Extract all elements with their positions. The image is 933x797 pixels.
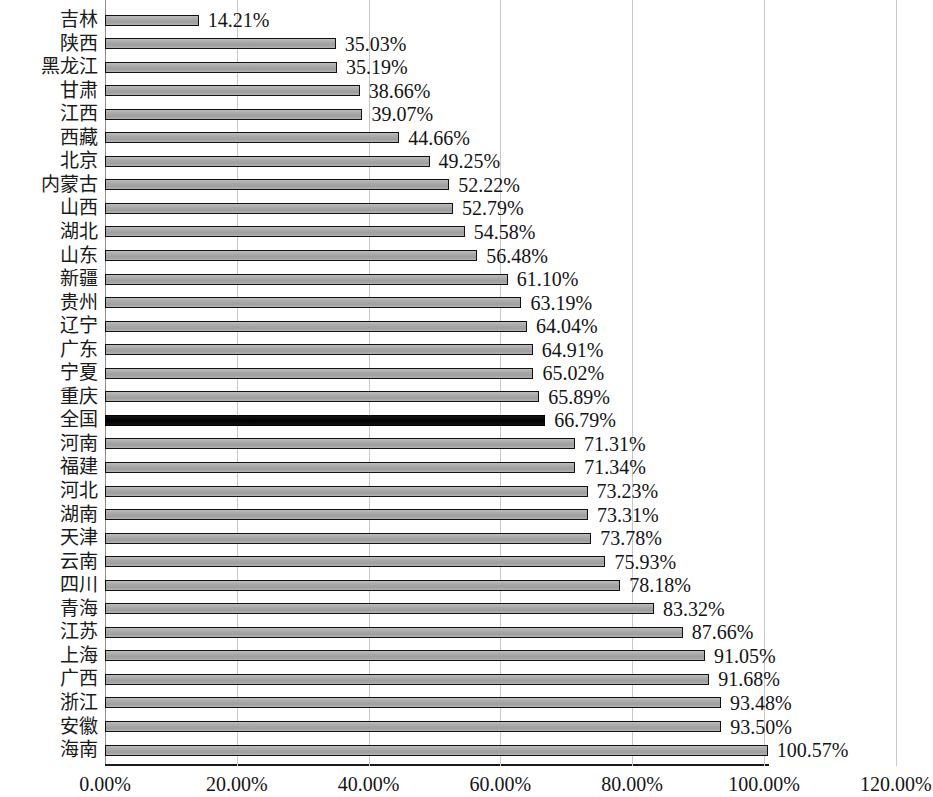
category-label: 云南 bbox=[2, 552, 98, 571]
category-label: 内蒙古 bbox=[2, 175, 98, 194]
bar-value-label: 63.19% bbox=[530, 293, 592, 313]
bar-value-label: 35.19% bbox=[346, 57, 408, 77]
bar-value-label: 100.57% bbox=[777, 740, 849, 760]
value-axis-tick: 40.00% bbox=[338, 774, 400, 794]
bar bbox=[105, 603, 654, 614]
bar-value-label: 39.07% bbox=[371, 104, 433, 124]
bar bbox=[105, 650, 705, 661]
bar bbox=[105, 250, 477, 261]
bar bbox=[105, 391, 539, 402]
category-label: 天津 bbox=[2, 528, 98, 547]
category-label: 福建 bbox=[2, 457, 98, 476]
bar-value-label: 35.03% bbox=[345, 34, 407, 54]
bar-value-label: 44.66% bbox=[408, 128, 470, 148]
bar bbox=[105, 509, 588, 520]
category-label: 湖北 bbox=[2, 222, 98, 241]
bar bbox=[105, 533, 591, 544]
bar bbox=[105, 109, 362, 120]
bar bbox=[105, 132, 399, 143]
bar-value-label: 78.18% bbox=[629, 575, 691, 595]
category-label: 黑龙江 bbox=[2, 57, 98, 76]
bar-value-label: 38.66% bbox=[369, 81, 431, 101]
bar-value-label: 54.58% bbox=[474, 222, 536, 242]
horizontal-bar-chart: 吉林陕西黑龙江甘肃江西西藏北京内蒙古山西湖北山东新疆贵州辽宁广东宁夏重庆全国河南… bbox=[0, 0, 933, 797]
bar-value-label: 52.79% bbox=[462, 198, 524, 218]
bar-value-label: 73.78% bbox=[600, 528, 662, 548]
bar-value-label: 91.68% bbox=[718, 669, 780, 689]
bar bbox=[105, 486, 588, 497]
category-label: 重庆 bbox=[2, 387, 98, 406]
bar-value-label: 91.05% bbox=[714, 646, 776, 666]
category-label: 江西 bbox=[2, 104, 98, 123]
bar-value-label: 64.91% bbox=[542, 340, 604, 360]
category-label: 甘肃 bbox=[2, 81, 98, 100]
bar-value-label: 73.31% bbox=[597, 505, 659, 525]
category-label: 河北 bbox=[2, 481, 98, 500]
category-label: 宁夏 bbox=[2, 363, 98, 382]
category-label: 全国 bbox=[2, 410, 98, 429]
bar bbox=[105, 580, 620, 591]
category-label: 吉林 bbox=[2, 10, 98, 29]
bar-value-label: 64.04% bbox=[536, 316, 598, 336]
bar bbox=[105, 721, 721, 732]
category-label: 四川 bbox=[2, 575, 98, 594]
bar bbox=[105, 297, 521, 308]
value-axis-tick: 60.00% bbox=[470, 774, 532, 794]
category-label: 上海 bbox=[2, 646, 98, 665]
category-label: 陕西 bbox=[2, 34, 98, 53]
value-axis-tick: 80.00% bbox=[601, 774, 663, 794]
bar-value-label: 56.48% bbox=[486, 246, 548, 266]
bar-value-label: 71.34% bbox=[584, 457, 646, 477]
category-label: 广东 bbox=[2, 340, 98, 359]
bar bbox=[105, 226, 465, 237]
bar bbox=[105, 627, 683, 638]
bar-value-label: 65.89% bbox=[548, 387, 610, 407]
value-axis-tick: 0.00% bbox=[79, 774, 131, 794]
bar bbox=[105, 697, 721, 708]
bar bbox=[105, 415, 545, 426]
category-label: 西藏 bbox=[2, 128, 98, 147]
bar bbox=[105, 85, 360, 96]
category-label: 北京 bbox=[2, 151, 98, 170]
bar bbox=[105, 179, 449, 190]
bar bbox=[105, 38, 336, 49]
category-label: 新疆 bbox=[2, 269, 98, 288]
value-axis-tick: 120.00% bbox=[860, 774, 932, 794]
plot-area: 14.21%35.03%35.19%38.66%39.07%44.66%49.2… bbox=[105, 0, 895, 766]
bar-value-label: 61.10% bbox=[517, 269, 579, 289]
category-label: 河南 bbox=[2, 434, 98, 453]
bar-value-label: 75.93% bbox=[614, 552, 676, 572]
bar-value-label: 65.02% bbox=[542, 363, 604, 383]
category-label: 贵州 bbox=[2, 293, 98, 312]
category-axis-labels: 吉林陕西黑龙江甘肃江西西藏北京内蒙古山西湖北山东新疆贵州辽宁广东宁夏重庆全国河南… bbox=[0, 0, 100, 766]
bar bbox=[105, 556, 605, 567]
bar-value-label: 93.48% bbox=[730, 693, 792, 713]
bar-value-label: 87.66% bbox=[692, 622, 754, 642]
bar bbox=[105, 344, 533, 355]
category-label: 山东 bbox=[2, 246, 98, 265]
bar-value-label: 52.22% bbox=[458, 175, 520, 195]
gridline bbox=[896, 0, 897, 766]
value-axis-tick-labels: 0.00%20.00%40.00%60.00%80.00%100.00%120.… bbox=[0, 768, 933, 797]
bar bbox=[105, 745, 768, 756]
bar-value-label: 73.23% bbox=[597, 481, 659, 501]
category-label: 青海 bbox=[2, 599, 98, 618]
bar bbox=[105, 462, 575, 473]
bar bbox=[105, 321, 527, 332]
bar bbox=[105, 15, 199, 26]
bar-value-label: 71.31% bbox=[584, 434, 646, 454]
category-label: 安徽 bbox=[2, 717, 98, 736]
category-label: 浙江 bbox=[2, 693, 98, 712]
bar bbox=[105, 203, 453, 214]
bar-value-label: 83.32% bbox=[663, 599, 725, 619]
bar-value-label: 66.79% bbox=[554, 410, 616, 430]
value-axis-tick: 20.00% bbox=[206, 774, 268, 794]
category-label: 广西 bbox=[2, 669, 98, 688]
category-label: 辽宁 bbox=[2, 316, 98, 335]
category-label: 湖南 bbox=[2, 505, 98, 524]
bar bbox=[105, 156, 430, 167]
bar bbox=[105, 274, 508, 285]
bar bbox=[105, 438, 575, 449]
bar bbox=[105, 368, 533, 379]
bar bbox=[105, 674, 709, 685]
